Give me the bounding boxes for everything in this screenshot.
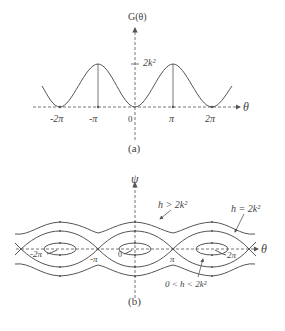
figure: G(θ) 2k² θ -2π -π 0 π 2π (a) — [0, 0, 285, 331]
tick-label-neg-2pi: -2π — [50, 113, 64, 124]
leader-zero — [124, 250, 132, 254]
panel-a: G(θ) 2k² θ -2π -π 0 π 2π (a) — [33, 11, 249, 155]
psi-axis-label: ψ — [131, 172, 139, 186]
tick-label-2pi: 2π — [205, 113, 216, 124]
separatrix-tail-left-bottom — [15, 249, 21, 255]
peak-label: 2k² — [143, 57, 156, 68]
g-theta-curve — [42, 64, 232, 107]
separatrix-tail-left-top — [15, 243, 21, 249]
caption-a: (a) — [128, 142, 141, 155]
tick-label-neg-pi: -π — [89, 113, 98, 124]
panel-b: ψ θ -2π -π 0 π 2π h > 2k² h = 2k² 0 < h … — [15, 172, 267, 308]
separatrix-tail-right-top — [249, 242, 256, 249]
leader-neg-2pi — [47, 250, 57, 254]
annotation-h-above: h > 2k² — [158, 199, 188, 210]
theta-axis-label: θ — [243, 100, 249, 114]
annotation-h-inside: 0 < h < 2k² — [165, 279, 207, 289]
tick-label-b-pi: π — [170, 254, 175, 264]
tick-label-pi: π — [169, 113, 175, 124]
arrow-h-separatrix — [235, 214, 244, 232]
g-axis-label: G(θ) — [128, 11, 147, 23]
arrow-h-above — [160, 210, 171, 219]
tick-label-b-2pi: 2π — [227, 250, 237, 260]
separatrix-tail-right-bottom — [249, 249, 256, 256]
caption-b: (b) — [128, 295, 141, 308]
theta-axis-label-b: θ — [261, 242, 267, 256]
tick-label-b-neg-pi: -π — [90, 254, 98, 264]
annotation-h-separatrix: h = 2k² — [231, 203, 261, 214]
tick-label-b-neg-2pi: -2π — [30, 249, 42, 259]
tick-label-zero: 0 — [128, 114, 133, 124]
tick-label-b-zero: 0 — [118, 250, 122, 259]
